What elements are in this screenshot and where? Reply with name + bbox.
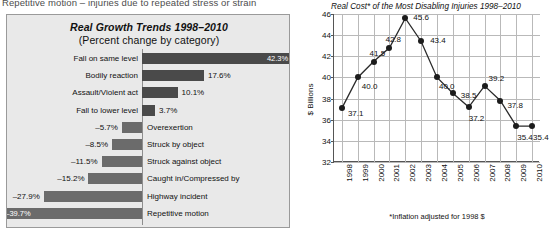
data-point-label: 38.5 <box>461 91 477 100</box>
bar-segment <box>142 87 178 98</box>
x-tick-label: 2006 <box>472 164 481 182</box>
bar-value-label: –27.9% <box>13 190 40 203</box>
y-tick-label: 44 <box>322 31 331 40</box>
bar-category-label: Repetitive motion <box>147 207 209 220</box>
y-tick-label: 46 <box>322 10 331 19</box>
bar-segment <box>142 105 155 116</box>
data-point-marker <box>355 74 361 80</box>
data-point-marker <box>497 98 503 104</box>
data-point-label: 37.1 <box>348 109 364 118</box>
bar-row: Assault/Violent act10.1% <box>7 86 290 99</box>
data-point-marker <box>513 123 519 129</box>
line-chart-y-axis-label: $ Billions <box>306 70 315 130</box>
bar-segment <box>88 173 142 184</box>
x-tick-label: 2001 <box>392 164 401 182</box>
y-tick-label: 34 <box>322 136 331 145</box>
bar-row: Repetitive motion–39.7% <box>7 207 290 220</box>
data-point-marker <box>371 59 377 65</box>
data-point-label: 39.2 <box>489 74 505 83</box>
bar-value-label: –39.7% <box>6 207 31 220</box>
y-tick-label: 32 <box>322 158 331 167</box>
y-tick-label: 38 <box>322 94 331 103</box>
bar-category-label: Overexertion <box>147 121 193 134</box>
data-point-label: 37.8 <box>507 101 523 110</box>
bar-value-label: 10.1% <box>182 86 205 99</box>
data-point-marker <box>482 83 488 89</box>
line-chart-panel: Real Cost* of the Most Disabling Injurie… <box>296 0 547 234</box>
data-point-marker <box>339 105 345 111</box>
bar-segment <box>44 191 142 202</box>
data-point-marker <box>386 45 392 51</box>
y-tick-label: 40 <box>322 73 331 82</box>
line-chart-plot-area: 3234363840424446199819992000200120022003… <box>333 14 539 162</box>
y-tick-mark <box>331 162 334 163</box>
bar-row: Struck by object–8.5% <box>7 138 290 151</box>
data-point-marker <box>402 15 408 21</box>
bar-value-label: 17.6% <box>208 69 231 82</box>
bar-segment <box>102 156 142 167</box>
x-tick-label: 2004 <box>440 164 449 182</box>
bar-row: Highway incident–27.9% <box>7 190 290 203</box>
line-chart-title: Real Cost* of the Most Disabling Injurie… <box>306 2 546 11</box>
bar-value-label: –5.7% <box>95 121 118 134</box>
y-tick-label: 42 <box>322 52 331 61</box>
bar-value-label: –15.2% <box>57 172 84 185</box>
x-tick-label: 1999 <box>361 164 370 182</box>
bar-value-label: 42.3% <box>267 52 288 65</box>
bar-category-label: Assault/Violent act <box>72 86 138 99</box>
x-tick-label: 2009 <box>519 164 528 182</box>
bar-value-label: 3.7% <box>159 104 177 117</box>
bar-category-label: Struck against object <box>147 155 221 168</box>
bar-segment <box>142 70 204 81</box>
data-point-label: 35.4 <box>517 133 533 142</box>
bar-category-label: Fall on same level <box>74 52 138 65</box>
bar-row: Struck against object–11.5% <box>7 155 290 168</box>
data-point-label: 45.6 <box>413 13 429 22</box>
data-point-marker <box>466 104 472 110</box>
data-point-marker <box>434 74 440 80</box>
y-tick-label: 36 <box>322 115 331 124</box>
data-point-label: 35.4 <box>533 133 549 142</box>
x-tick-label: 1998 <box>345 164 354 182</box>
bar-row: Caught in/Compressed by–15.2% <box>7 172 290 185</box>
x-tick-label: 2008 <box>503 164 512 182</box>
bar-row: Fall to lower level3.7% <box>7 104 290 117</box>
x-tick-label: 2003 <box>424 164 433 182</box>
x-tick-label: 2007 <box>488 164 497 182</box>
x-tick-label: 2005 <box>456 164 465 182</box>
x-tick-label: 2010 <box>535 164 544 182</box>
data-point-label: 42.8 <box>385 35 401 44</box>
line-chart-footnote: *Inflation adjusted for 1998 $ <box>332 212 542 221</box>
bar-row: Overexertion–5.7% <box>7 121 290 134</box>
data-point-marker <box>529 123 535 129</box>
bar-category-label: Fall to lower level <box>76 104 138 117</box>
bar-category-label: Highway incident <box>147 190 207 203</box>
bar-row: Fall on same level42.3% <box>7 52 290 65</box>
data-point-label: 43.4 <box>430 36 446 45</box>
bar-chart-title: Real Growth Trends 1998–2010 <box>7 21 290 33</box>
bar-chart-subtitle: (Percent change by category) <box>7 34 290 46</box>
bar-chart-panel: Real Growth Trends 1998–2010 (Percent ch… <box>6 14 290 228</box>
data-point-label: 41.5 <box>370 49 386 58</box>
bar-category-label: Caught in/Compressed by <box>147 172 240 185</box>
bar-value-label: –8.5% <box>85 138 108 151</box>
x-tick-label: 2002 <box>408 164 417 182</box>
bar-chart-plot-area: Fall on same level42.3%Bodily reaction17… <box>7 49 290 225</box>
bar-value-label: –11.5% <box>71 155 98 168</box>
bar-category-label: Bodily reaction <box>86 69 138 82</box>
data-point-marker <box>450 90 456 96</box>
data-point-label: 40.0 <box>362 82 378 91</box>
bar-row: Bodily reaction17.6% <box>7 69 290 82</box>
bar-category-label: Struck by object <box>147 138 204 151</box>
top-caption-text: Repetitive motion – injuries due to repe… <box>2 0 302 11</box>
bar-segment <box>122 122 142 133</box>
x-tick-label: 2000 <box>377 164 386 182</box>
data-point-label: 37.2 <box>469 114 485 123</box>
data-point-marker <box>418 38 424 44</box>
bar-segment <box>112 139 142 150</box>
